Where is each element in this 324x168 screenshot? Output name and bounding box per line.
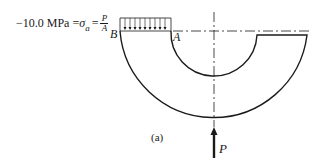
equals-sign: = <box>72 16 79 31</box>
centerlines <box>173 12 312 127</box>
equals-sign-2: = <box>92 16 99 31</box>
figure-caption: (a) <box>151 131 163 143</box>
sigma-subscript: a <box>85 23 90 33</box>
point-label-a: A <box>173 30 180 45</box>
denominator: A <box>102 24 108 33</box>
distributed-load <box>120 18 171 31</box>
point-label-b: B <box>110 27 117 42</box>
load-label-p: P <box>219 141 227 157</box>
stress-equation: −10.0 MPa = σ a = P A <box>16 14 108 33</box>
curved-member-outline <box>120 31 307 118</box>
load-arrow-p <box>211 127 218 158</box>
fraction-p-over-a: P A <box>100 14 108 33</box>
numerator: P <box>102 14 108 23</box>
stress-value: −10.0 MPa <box>16 16 69 31</box>
